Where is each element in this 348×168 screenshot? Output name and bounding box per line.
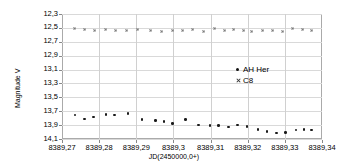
gridline-horizontal [62, 70, 322, 71]
data-point-c8 [232, 27, 235, 30]
data-point-c8 [136, 28, 139, 31]
data-point-c8 [171, 29, 174, 32]
legend-cross-icon [236, 78, 241, 83]
y-tick-label: 12,9 [28, 51, 58, 59]
data-point-ah-her [275, 132, 278, 135]
data-point-c8 [261, 28, 264, 31]
data-point-ah-her [113, 114, 116, 117]
data-point-ah-her [171, 122, 174, 125]
y-tick-label: 12,7 [28, 37, 58, 45]
x-tick-label: 8389,33 [265, 144, 305, 152]
data-point-c8 [223, 28, 226, 31]
data-point-ah-her [184, 118, 187, 121]
data-point-c8 [149, 28, 152, 31]
data-point-ah-her [209, 124, 212, 127]
data-point-c8 [271, 28, 274, 31]
y-tick-mark [59, 14, 62, 15]
x-tick-label: 8389,28 [79, 144, 119, 152]
x-tick-mark [322, 140, 323, 143]
y-tick-label: 13,1 [28, 65, 58, 73]
y-tick-label: 13,3 [28, 79, 58, 87]
gridline-horizontal [62, 56, 322, 57]
data-point-c8 [310, 28, 313, 31]
y-tick-label: 13,5 [28, 93, 58, 101]
y-tick-label: 14,1 [28, 135, 58, 143]
data-point-c8 [104, 28, 107, 31]
gridline-horizontal [62, 125, 322, 126]
x-tick-mark [173, 140, 174, 143]
data-point-c8 [250, 29, 253, 32]
x-tick-mark [285, 140, 286, 143]
data-point-ah-her [83, 118, 86, 121]
data-point-ah-her [154, 119, 157, 122]
legend-item-label: C8 [243, 75, 253, 86]
data-point-ah-her [217, 124, 220, 127]
y-tick-label: 13,7 [28, 107, 58, 115]
data-point-c8 [73, 27, 76, 30]
data-point-c8 [93, 29, 96, 32]
data-point-ah-her [105, 113, 108, 116]
y-tick-mark [59, 97, 62, 98]
data-point-c8 [291, 27, 294, 30]
x-tick-label: 8389,29 [116, 144, 156, 152]
x-tick-label: 8389,31 [191, 144, 231, 152]
x-tick-mark [211, 140, 212, 143]
gridline-vertical [173, 14, 174, 139]
data-point-c8 [160, 30, 163, 33]
y-tick-mark [59, 125, 62, 126]
data-point-c8 [83, 27, 86, 30]
x-tick-mark [62, 140, 63, 143]
data-point-c8 [181, 28, 184, 31]
y-tick-mark [59, 111, 62, 112]
data-point-ah-her [284, 131, 287, 134]
x-tick-label: 8389,27 [42, 144, 82, 152]
gridline-horizontal [62, 97, 322, 98]
gridline-horizontal [62, 42, 322, 43]
gridline-horizontal [62, 111, 322, 112]
gridline-vertical [99, 14, 100, 139]
y-tick-mark [59, 56, 62, 57]
y-tick-label: 12,3 [28, 10, 58, 18]
legend-item-label: AH Her [243, 64, 269, 75]
x-tick-mark [248, 140, 249, 143]
x-axis-title: JD(2450000,0+) [0, 153, 348, 160]
data-point-c8 [191, 27, 194, 30]
gridline-horizontal [62, 139, 322, 140]
data-point-c8 [281, 29, 284, 32]
gridline-horizontal [62, 14, 322, 15]
light-curve-chart: 12,312,512,712,913,113,313,513,713,914,1… [0, 0, 348, 168]
gridline-vertical [211, 14, 212, 139]
gridline-vertical [285, 14, 286, 139]
y-tick-label: 13,9 [28, 121, 58, 129]
x-tick-label: 8389,3 [153, 144, 193, 152]
x-tick-label: 8389,34 [302, 144, 342, 152]
y-tick-mark [59, 70, 62, 71]
data-point-c8 [301, 28, 304, 31]
data-point-c8 [202, 29, 205, 32]
y-tick-mark [59, 42, 62, 43]
y-tick-mark [59, 83, 62, 84]
data-point-c8 [114, 28, 117, 31]
data-point-c8 [213, 27, 216, 30]
y-tick-label: 12,5 [28, 23, 58, 31]
gridline-vertical [136, 14, 137, 139]
y-axis-title: Magnitude V [14, 69, 21, 108]
x-tick-mark [136, 140, 137, 143]
x-tick-label: 8389,32 [228, 144, 268, 152]
data-point-c8 [125, 28, 128, 31]
y-tick-mark [59, 28, 62, 29]
data-point-c8 [242, 28, 245, 31]
gridline-horizontal [62, 83, 322, 84]
data-point-ah-her [141, 118, 144, 121]
x-tick-mark [99, 140, 100, 143]
